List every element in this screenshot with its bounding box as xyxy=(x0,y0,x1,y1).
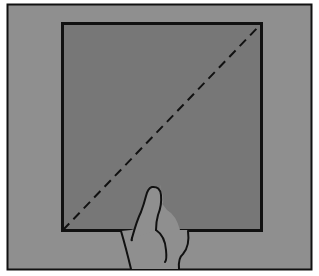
diagram-canvas xyxy=(0,0,319,276)
fold-diagram xyxy=(0,0,319,276)
